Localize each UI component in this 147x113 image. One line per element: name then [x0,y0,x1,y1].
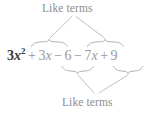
algebraic-expression: 3x2 + 3x − 6 − 7x + 9 [7,47,118,65]
like-terms-label-top: Like terms [42,2,93,15]
figure-canvas: Like terms 3x2 + 3x − 6 − 7x + 9 Like te… [0,0,147,113]
like-terms-label-bottom: Like terms [62,96,113,109]
term-coefficient: 3 [7,48,14,63]
overbrace-plus-3x-icon [32,39,68,46]
connector-bottom-right-line [99,75,128,93]
underbrace-minus-6-icon [62,67,93,74]
term-coefficient: 6 [65,48,72,63]
term-6: 6 [65,47,72,65]
operator-plus-2: + [98,47,111,65]
term-7x: 7x [84,47,97,65]
term-variable: x [14,48,21,63]
overbrace-minus-7x-icon [88,39,124,46]
term-9: 9 [111,47,118,65]
term-coefficient: 9 [111,48,118,63]
term-3x-squared: 3x2 [7,47,26,65]
connector-bottom-left-line [78,75,94,93]
term-3x: 3x [38,47,51,65]
underbrace-plus-9-icon [114,67,143,74]
connector-top-right-line [76,17,105,39]
connector-top-left-line [50,17,72,39]
operator-plus-1: + [26,47,39,65]
operator-minus-1: − [52,47,65,65]
operator-minus-2: − [72,47,85,65]
